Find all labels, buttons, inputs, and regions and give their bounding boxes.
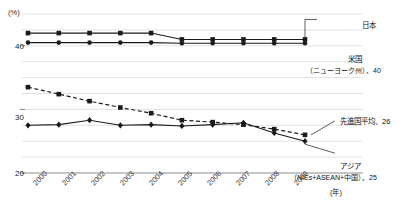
data-point-marker [118,40,123,45]
data-point-marker [149,122,154,128]
data-point-marker [149,31,154,36]
annotation-leader [305,144,335,153]
gridlines [22,14,363,157]
data-point-marker [272,41,277,46]
series-line-3 [28,120,305,141]
data-point-marker [210,41,215,46]
series-label-asia: アジア [340,162,361,172]
data-point-marker [118,122,123,128]
data-point-marker [26,85,31,90]
data-point-marker [26,31,31,36]
series-label-usa: 米国 [348,55,362,65]
data-point-marker [87,117,92,123]
y-tick-30: 30 [2,113,24,122]
data-point-marker [149,40,154,45]
data-point-marker [241,41,246,46]
data-point-marker [87,40,92,45]
y-tick-20: 20 [2,169,24,178]
data-point-marker [26,40,31,45]
series-label-developed: 先進国平均、26 [340,117,390,127]
annotation-leader [305,19,317,39]
data-point-marker [149,111,154,116]
data-point-marker [56,31,61,36]
series-line-2 [28,87,305,135]
data-point-marker [180,118,185,123]
data-point-marker [303,41,308,46]
data-point-marker [302,138,307,144]
y-tick-40: 40 [2,42,24,51]
data-point-marker [87,99,92,104]
data-point-marker [56,122,61,128]
chart-container: (%) 40 30 20 2000 2001 2002 2003 2004 20… [0,0,405,214]
data-point-marker [118,31,123,36]
series-label-japan: 日本 [362,21,376,31]
data-point-marker [56,92,61,97]
series-line-1 [28,43,305,44]
data-point-marker [180,41,185,46]
data-point-marker [56,40,61,45]
annotation-leaders [305,19,335,153]
series-label-usa-detail: （ニューヨーク州）、40 [306,66,381,76]
data-point-marker [87,31,92,36]
y-axis-unit-label: (%) [8,8,20,17]
series-line-0 [28,33,305,39]
data-point-marker [25,122,30,128]
data-point-marker [179,123,184,129]
x-axis-unit-label: (年) [330,186,342,197]
annotation-leader [311,121,335,135]
data-point-marker [303,133,308,138]
series-label-asia-detail: （NIEs+ASEAN+中国）、25 [290,173,377,183]
data-point-marker [118,105,123,110]
